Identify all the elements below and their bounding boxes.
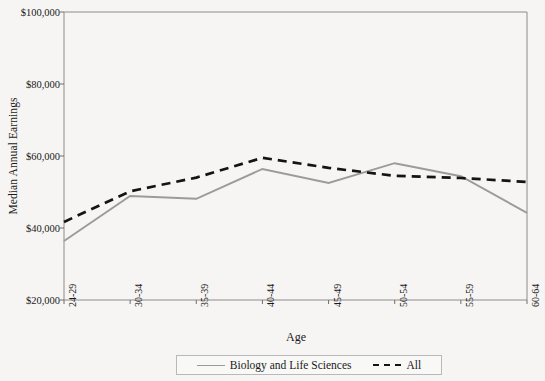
plot-area	[0, 0, 545, 381]
x-axis-tick-label: 30-34	[134, 284, 144, 307]
x-axis-tick-label: 35-39	[200, 284, 210, 307]
x-axis-tick-label: 40-44	[266, 284, 276, 307]
legend-swatch-solid-line-icon	[197, 365, 225, 366]
y-axis-tick-label: $100,000	[18, 8, 60, 18]
legend-swatch-dashed-line-icon	[373, 364, 401, 366]
series-line-all	[64, 158, 527, 222]
y-axis-tick-label: $40,000	[18, 224, 60, 234]
series-line-biology-and-life-sciences	[64, 163, 527, 241]
x-axis-tick-label: 55-59	[465, 284, 475, 307]
legend-item-biology: Biology and Life Sciences	[197, 359, 352, 371]
x-axis-tick-label: 60-64	[531, 284, 541, 307]
x-axis-tick-label: 45-49	[333, 284, 343, 307]
y-axis-tick-label: $20,000	[18, 296, 60, 306]
legend-label-biology: Biology and Life Sciences	[230, 359, 352, 371]
y-axis-tick-label: $80,000	[18, 80, 60, 90]
x-axis-tick-label: 50-54	[399, 284, 409, 307]
chart-figure: Median Annual Earnings $100,000 $80,000 …	[0, 0, 545, 381]
y-axis-tick-label: $60,000	[18, 152, 60, 162]
x-axis-title: Age	[64, 330, 528, 345]
legend-item-all: All	[373, 359, 421, 371]
legend-label-all: All	[406, 359, 421, 371]
x-axis-tick-label: 24-29	[68, 284, 78, 307]
chart-legend: Biology and Life Sciences All	[176, 355, 442, 375]
